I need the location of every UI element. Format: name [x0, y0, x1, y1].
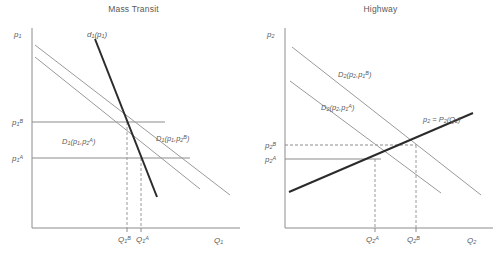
curve-demand-high-1	[35, 45, 230, 195]
price-tick-label-p2B: p2B	[264, 141, 276, 150]
chart-panel-highway: Highway p2 Q2 p2B	[251, 0, 502, 256]
y-axis-label-p1: p1	[13, 30, 21, 39]
curve-supply-2	[289, 113, 473, 192]
curve-demand-low-1	[35, 57, 200, 189]
quantity-tick-label-Q1A: Q1A	[136, 235, 149, 244]
quantity-tick-label-Q2A: Q2A	[366, 235, 379, 244]
plot-svg-mass-transit: p1 Q1 p1B p1A Q1B Q1A d1(p1) D1(p1,p2A) …	[0, 0, 251, 256]
y-axis-label-p2: p2	[266, 30, 274, 39]
x-axis-label-Q2: Q2	[467, 236, 476, 245]
curve-label-D2-low: D2(p2,p1A)	[321, 103, 355, 112]
chart-panel-mass-transit: Mass Transit p1 Q1 p1	[0, 0, 251, 256]
quantity-tick-label-Q1B: Q1B	[118, 235, 131, 244]
price-tick-label-p1B: p1B	[11, 118, 23, 127]
curve-label-D1-low: D1(p1,p2A)	[62, 137, 96, 146]
price-tick-label-p1A: p1A	[11, 154, 23, 163]
curve-label-D2-high: D2(p2,p1B)	[338, 70, 372, 79]
curve-label-supply: p2 = P2(Q2)	[422, 115, 461, 124]
curve-label-d1: d1(p1)	[87, 30, 108, 39]
curve-label-D1-high: D1(p1,p2B)	[156, 134, 190, 143]
plot-svg-highway: p2 Q2 p2B p2A Q2A Q2B D2(p2,p1B) D2(p2,p…	[251, 0, 502, 256]
quantity-tick-label-Q2B: Q2B	[407, 235, 420, 244]
figure-root: Mass Transit p1 Q1 p1	[0, 0, 502, 256]
x-axis-label-Q1: Q1	[214, 236, 223, 245]
curve-inverse-demand-1	[95, 39, 157, 197]
price-tick-label-p2A: p2A	[264, 155, 276, 164]
